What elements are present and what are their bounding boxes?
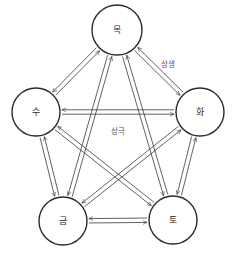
node-hwa: 화 (176, 88, 224, 136)
arrow-forward (135, 50, 180, 95)
arrow-backward (58, 126, 154, 202)
arrow-forward (89, 218, 147, 219)
edge-hwa-su (62, 110, 174, 114)
arrow-forward (82, 126, 178, 203)
node-label: 수 (32, 107, 40, 117)
arrow-backward (85, 130, 181, 207)
generating-label: 상생 (161, 59, 175, 69)
edge-su-to (55, 126, 154, 205)
edge-hwa-geum (82, 126, 181, 206)
arrow-backward (138, 47, 183, 92)
arrow-backward (89, 222, 147, 223)
arrow-backward (72, 56, 112, 196)
node-label: 화 (196, 107, 204, 117)
node-label: 금 (59, 216, 67, 226)
edge-to-geum (89, 218, 147, 223)
five-elements-diagram: 목화토금수 상생 상극 (0, 0, 234, 260)
node-su: 수 (12, 88, 60, 136)
arrow-forward (44, 137, 59, 196)
arrow-backward (127, 55, 168, 194)
arrow-forward (56, 51, 100, 95)
arrow-forward (122, 56, 163, 195)
arrow-backward (53, 48, 97, 92)
node-label: 목 (113, 25, 121, 35)
node-geum: 금 (39, 197, 87, 245)
node-to: 토 (149, 196, 197, 244)
edge-su-mok (53, 48, 100, 96)
nodes-layer: 목화토금수 (12, 5, 224, 245)
arrow-backward (40, 138, 55, 197)
node-mok: 목 (92, 5, 142, 55)
edge-hwa-to (177, 137, 196, 196)
node-label: 토 (169, 215, 177, 225)
edge-mok-hwa (135, 47, 184, 95)
arrow-backward (181, 138, 195, 196)
edge-geum-su (40, 137, 59, 197)
arrow-forward (177, 137, 191, 195)
overcoming-label: 상극 (111, 126, 125, 136)
arrow-forward (55, 130, 151, 206)
